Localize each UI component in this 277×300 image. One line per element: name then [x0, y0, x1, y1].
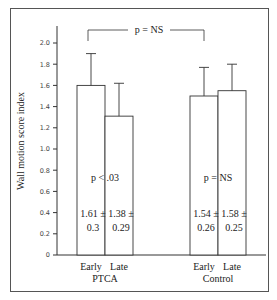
y-tick-label: 1.4	[40, 103, 50, 111]
x-category-label: Late	[223, 261, 241, 272]
x-category-label: Early	[80, 261, 102, 272]
mean-label: 1.58 ±	[221, 208, 247, 219]
y-tick-label: 0.4	[40, 209, 50, 217]
group-label: PTCA	[92, 273, 118, 284]
sd-label: 0.29	[112, 222, 130, 233]
x-category-label: Late	[110, 261, 128, 272]
mean-label: 1.54 ±	[193, 208, 219, 219]
mean-label: 1.61 ±	[80, 208, 106, 219]
y-tick-label: 0.6	[40, 188, 50, 196]
y-tick-label: 0	[46, 251, 50, 259]
y-tick-label: 1.6	[40, 82, 50, 90]
y-tick-label: 2.0	[40, 39, 50, 47]
significance-bracket: p = NS	[88, 24, 204, 41]
within-group-p-value: p = NS	[204, 172, 232, 183]
x-category-label: Early	[193, 261, 215, 272]
group-label: Control	[203, 273, 234, 284]
y-tick-label: 0.8	[40, 167, 50, 175]
sd-label: 0.26	[197, 222, 215, 233]
between-group-p-value: p = NS	[135, 24, 163, 35]
bars	[77, 54, 246, 255]
y-ticks: 00.20.40.60.81.01.21.41.61.82.0	[40, 39, 57, 259]
y-tick-label: 1.2	[40, 124, 50, 132]
sd-label: 0.3	[87, 222, 100, 233]
y-tick-label: 1.8	[40, 61, 50, 69]
y-axis-label: Wall motion score index	[15, 92, 26, 190]
bar-chart: 00.20.40.60.81.01.21.41.61.82.0 Wall mot…	[0, 0, 277, 300]
y-tick-label: 0.2	[40, 230, 50, 238]
sd-label: 0.25	[225, 222, 243, 233]
mean-label: 1.38 ±	[108, 208, 134, 219]
y-tick-label: 1.0	[40, 145, 50, 153]
within-group-p-value: p < .03	[91, 172, 119, 183]
